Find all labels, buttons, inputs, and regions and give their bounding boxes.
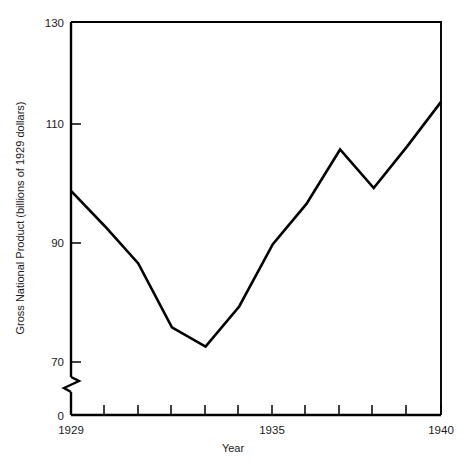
gnp-data-line [71,102,441,347]
y-tick-label-90: 90 [51,237,64,249]
y-tick-label-0: 0 [58,410,64,422]
y-tick-label-110: 110 [46,118,64,130]
y-axis-title: Gross National Product (billions of 1929… [14,102,26,335]
x-axis-title: Year [222,442,245,454]
y-tick-label-130: 130 [45,17,64,29]
y-axis-break-icon [64,377,79,392]
plot-frame-border [71,22,441,415]
x-tick-label-1935: 1935 [259,424,285,436]
y-tick-label-70: 70 [51,356,64,368]
chart-figure: 130 110 90 70 0 1929 1935 1940 Year Gros… [0,0,467,463]
x-tick-label-1940: 1940 [428,424,454,436]
x-tick-label-1929: 1929 [58,424,84,436]
gnp-line-chart: 130 110 90 70 0 1929 1935 1940 Year Gros… [0,0,467,463]
